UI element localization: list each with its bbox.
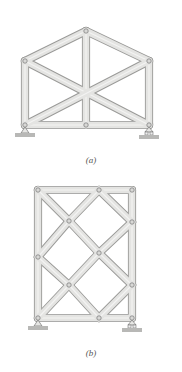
pin-joint (23, 59, 27, 63)
caption-a: (a) (0, 155, 182, 165)
pin-joint (97, 188, 101, 192)
member-highlight (86, 31, 149, 61)
pin-joint (36, 188, 40, 192)
member-highlight (69, 190, 99, 221)
pin-joint (130, 283, 134, 287)
pin-joint (97, 251, 101, 255)
pin-joint (84, 123, 88, 127)
member-highlight (69, 221, 99, 253)
pin-joint (97, 316, 101, 320)
member-highlight (99, 285, 132, 318)
pin-joint (130, 220, 134, 224)
pin-joint (67, 283, 71, 287)
member-highlight (99, 222, 132, 253)
member-highlight (38, 285, 69, 318)
caption-b: (b) (0, 348, 182, 358)
pin-joint (147, 59, 151, 63)
pin-joint (84, 29, 88, 33)
member-highlight (25, 31, 86, 61)
pin-joint (130, 188, 134, 192)
member-highlight (99, 253, 132, 285)
truss-diagram (0, 0, 182, 372)
member-highlight (99, 190, 132, 222)
member-highlight (69, 285, 99, 318)
member-highlight (38, 221, 69, 257)
member-highlight (69, 253, 99, 285)
pin-joint (67, 219, 71, 223)
truss-b (28, 188, 142, 332)
pin-joint (36, 255, 40, 259)
member-highlight (38, 257, 69, 285)
member-highlight (38, 190, 69, 221)
truss-a (15, 29, 159, 139)
